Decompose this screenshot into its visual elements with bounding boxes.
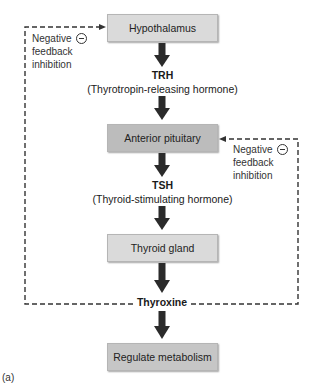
down-arrow-icon xyxy=(154,311,170,339)
node-thyroid-gland: Thyroid gland xyxy=(107,234,218,262)
feedback-label-left: Negative feedback inhibition xyxy=(32,32,87,71)
node-label: Anterior pituitary xyxy=(124,132,200,144)
feedback-label-right: Negative feedback inhibition xyxy=(233,143,288,182)
node-label: Thyroid gland xyxy=(131,242,195,254)
feedback-text: Negative xyxy=(32,33,71,44)
feedback-text: feedback xyxy=(32,46,73,57)
minus-circle-icon xyxy=(76,33,87,44)
feedback-text: Negative xyxy=(233,144,272,155)
hormone-thyroxine: Thyroxine xyxy=(133,296,191,308)
hormone-tsh: TSH (Thyroid-stimulating hormone) xyxy=(0,179,315,205)
hormone-full-name: (Thyrotropin-releasing hormone) xyxy=(0,83,315,95)
node-label: Hypothalamus xyxy=(129,22,196,34)
hormone-full-name: (Thyroid-stimulating hormone) xyxy=(0,193,315,205)
down-arrow-icon xyxy=(154,206,170,230)
feedback-text: inhibition xyxy=(233,170,272,181)
down-arrow-icon xyxy=(154,43,170,67)
node-anterior-pituitary: Anterior pituitary xyxy=(107,124,218,152)
hormone-trh: TRH (Thyrotropin-releasing hormone) xyxy=(0,69,315,95)
down-arrow-icon xyxy=(154,153,170,177)
node-label: Regulate metabolism xyxy=(113,351,212,363)
minus-circle-icon xyxy=(277,144,288,155)
feedback-text: inhibition xyxy=(32,59,71,70)
node-regulate-metabolism: Regulate metabolism xyxy=(107,343,218,371)
figure-caption: (a) xyxy=(2,372,14,383)
feedback-text: feedback xyxy=(233,157,274,168)
node-hypothalamus: Hypothalamus xyxy=(107,14,218,42)
down-arrow-icon xyxy=(154,263,170,293)
down-arrow-icon xyxy=(154,96,170,120)
